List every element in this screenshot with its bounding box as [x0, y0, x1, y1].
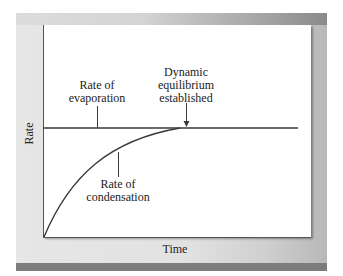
chart-lines — [0, 0, 343, 276]
equilibrium-label-line-3: established — [141, 92, 231, 105]
y-axis-label: Rate — [22, 119, 37, 149]
equilibrium-arrow-head-icon — [184, 121, 190, 127]
condensation-label-line-2: condensation — [78, 191, 158, 204]
x-axis-label: Time — [155, 243, 195, 256]
evaporation-label-line-2: evaporation — [57, 92, 137, 105]
